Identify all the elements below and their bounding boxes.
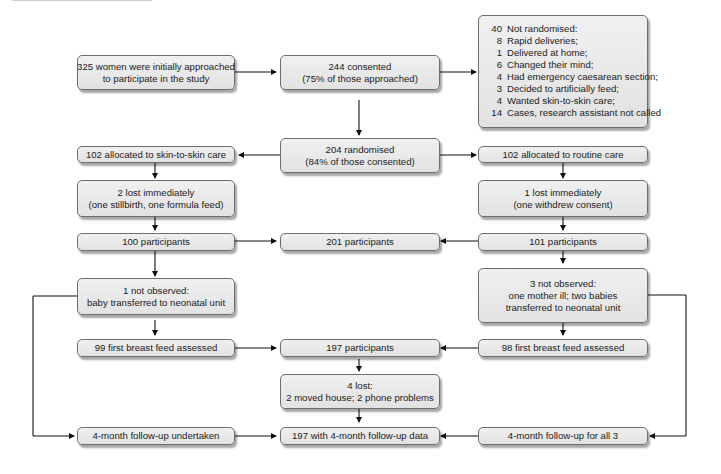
randomised-box: 204 randomised (84% of those consented)	[280, 138, 440, 173]
reason-row: 6Changed their mind;	[486, 59, 593, 71]
label: Had emergency caesarean section;	[507, 71, 658, 83]
skin-to-skin-participants-box: 100 participants	[77, 233, 235, 251]
label: Decided to artificially feed;	[507, 83, 619, 95]
box-text: 101 participants	[529, 236, 597, 248]
box-text: transferred to neonatal unit	[506, 302, 621, 314]
reason-row: 14Cases, research assistant not called	[486, 107, 661, 119]
reason-row: 1Delivered at home;	[486, 47, 588, 59]
box-text: 325 women were initially approached	[77, 61, 235, 73]
skin-to-skin-allocated-box: 102 allocated to skin-to-skin care	[77, 146, 235, 163]
box-text: 197 participants	[326, 342, 394, 354]
routine-not-observed-box: 3 not observed: one mother ill; two babi…	[478, 268, 648, 323]
routine-participants-box: 101 participants	[478, 233, 648, 251]
skin-to-skin-assessed-box: 99 first breast feed assessed	[77, 339, 235, 357]
count: 1	[486, 47, 502, 59]
label: Rapid deliveries;	[507, 35, 578, 47]
box-text: 4-month follow-up undertaken	[93, 430, 220, 442]
label: Not randomised:	[507, 23, 577, 35]
box-text: (75% of those approached)	[302, 73, 418, 85]
box-text: to participate in the study	[103, 73, 210, 85]
box-text: 244 consented	[329, 61, 392, 73]
box-text: baby transferred to neonatal unit	[87, 297, 225, 309]
box-text: 99 first breast feed assessed	[95, 342, 218, 354]
skin-to-skin-lost-box: 2 lost immediately (one stillbirth, one …	[77, 180, 235, 217]
count: 40	[486, 23, 502, 35]
consented-box: 244 consented (75% of those approached)	[280, 55, 440, 90]
box-text: 204 randomised	[326, 144, 395, 156]
reason-row: 4Wanted skin-to-skin care;	[486, 95, 615, 107]
box-text: 98 first breast feed assessed	[502, 342, 625, 354]
box-text: 197 with 4-month follow-up data	[292, 430, 428, 442]
count: 14	[486, 107, 502, 119]
box-text: (one stillbirth, one formula feed)	[89, 199, 224, 211]
box-text: 102 allocated to routine care	[502, 149, 623, 161]
box-text: 1 lost immediately	[525, 187, 602, 199]
routine-allocated-box: 102 allocated to routine care	[478, 146, 648, 163]
box-text: (84% of those consented)	[305, 156, 414, 168]
skin-to-skin-followup-box: 4-month follow-up undertaken	[77, 427, 235, 445]
box-text: 201 participants	[326, 236, 394, 248]
label: Delivered at home;	[507, 47, 588, 59]
not-randomised-box: 40 Not randomised: 8Rapid deliveries; 1D…	[478, 15, 648, 128]
reason-row: 3Decided to artificially feed;	[486, 83, 619, 95]
box-text: 1 not observed:	[123, 285, 189, 297]
routine-assessed-box: 98 first breast feed assessed	[478, 339, 648, 357]
label: Cases, research assistant not called	[507, 107, 661, 119]
skin-to-skin-not-observed-box: 1 not observed: baby transferred to neon…	[77, 278, 235, 315]
participants-197-box: 197 participants	[280, 339, 440, 357]
box-text: 4-month follow-up for all 3	[508, 430, 618, 442]
count: 6	[486, 59, 502, 71]
routine-followup-box: 4-month follow-up for all 3	[478, 427, 648, 445]
box-text: one mother ill; two babies	[509, 290, 618, 302]
reason-row: 4Had emergency caesarean section;	[486, 71, 658, 83]
routine-lost-box: 1 lost immediately (one withdrew consent…	[478, 180, 648, 217]
count: 8	[486, 35, 502, 47]
box-text: 3 not observed:	[530, 278, 596, 290]
approached-box: 325 women were initially approached to p…	[77, 55, 235, 90]
count: 4	[486, 95, 502, 107]
count: 3	[486, 83, 502, 95]
label: Changed their mind;	[507, 59, 593, 71]
count: 4	[486, 71, 502, 83]
lost-4-box: 4 lost: 2 moved house; 2 phone problems	[280, 374, 440, 409]
box-text: 102 allocated to skin-to-skin care	[86, 149, 226, 161]
followup-197-box: 197 with 4-month follow-up data	[280, 427, 440, 445]
box-text: 100 participants	[122, 236, 190, 248]
participants-201-box: 201 participants	[280, 233, 440, 251]
box-text: 4 lost:	[347, 380, 373, 392]
box-text: (one withdrew consent)	[513, 199, 612, 211]
not-randomised-title: 40 Not randomised:	[486, 23, 577, 35]
box-text: 2 moved house; 2 phone problems	[286, 392, 434, 404]
box-text: 2 lost immediately	[118, 187, 195, 199]
label: Wanted skin-to-skin care;	[507, 95, 615, 107]
reason-row: 8Rapid deliveries;	[486, 35, 578, 47]
